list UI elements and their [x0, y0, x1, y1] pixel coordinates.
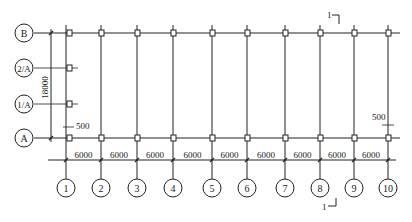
offset-right-text: 500: [372, 112, 386, 122]
column-marker: [171, 30, 176, 36]
row-axis-label: 2/A: [17, 64, 31, 74]
column-axis-label: 5: [210, 183, 215, 194]
column-marker: [245, 135, 250, 141]
column-marker: [210, 30, 215, 36]
row-axis-label: A: [20, 133, 28, 144]
section-mark-bottom: [328, 198, 336, 206]
bay-dimension-text: 6000: [257, 150, 276, 160]
column-marker: [67, 65, 72, 71]
bay-dimension-text: 6000: [294, 150, 313, 160]
column-marker: [352, 135, 357, 141]
structural-grid-plan: B2/A1/AA12345678910600060006000600060006…: [0, 0, 412, 222]
offset-left-text: 500: [76, 121, 90, 131]
column-marker: [386, 135, 391, 141]
column-marker: [67, 135, 72, 141]
column-marker: [171, 135, 176, 141]
column-axis-label: 9: [352, 183, 357, 194]
column-marker: [67, 101, 72, 107]
column-marker: [318, 30, 323, 36]
column-marker: [386, 30, 391, 36]
section-mark-bottom-label: 1: [322, 202, 327, 212]
column-marker: [135, 30, 140, 36]
column-axis-label: 6: [245, 183, 250, 194]
bay-dimension-text: 6000: [110, 150, 129, 160]
bay-dimension-text: 6000: [328, 150, 347, 160]
column-marker: [99, 135, 104, 141]
column-axis-label: 1: [64, 183, 69, 194]
column-marker: [210, 135, 215, 141]
column-axis-label: 8: [318, 183, 323, 194]
column-marker: [352, 30, 357, 36]
bay-dimension-text: 6000: [362, 150, 381, 160]
column-marker: [99, 30, 104, 36]
column-marker: [135, 135, 140, 141]
column-marker: [283, 30, 288, 36]
section-mark-top: [332, 15, 339, 24]
column-marker: [67, 30, 72, 36]
column-marker: [245, 30, 250, 36]
column-marker: [283, 135, 288, 141]
column-axis-label: 3: [135, 183, 140, 194]
bay-dimension-text: 6000: [221, 150, 240, 160]
row-axis-label: B: [21, 28, 28, 39]
vertical-dimension-text: 18000: [40, 76, 50, 99]
row-axis-label: 1/A: [17, 100, 31, 110]
bay-dimension-text: 6000: [146, 150, 165, 160]
bay-dimension-text: 6000: [75, 150, 94, 160]
column-axis-label: 4: [171, 183, 176, 194]
column-axis-label: 7: [283, 183, 288, 194]
bay-dimension-text: 6000: [184, 150, 203, 160]
section-mark-top-label: 1: [327, 10, 332, 20]
column-marker: [318, 135, 323, 141]
column-axis-label: 10: [383, 183, 393, 194]
column-axis-label: 2: [99, 183, 104, 194]
